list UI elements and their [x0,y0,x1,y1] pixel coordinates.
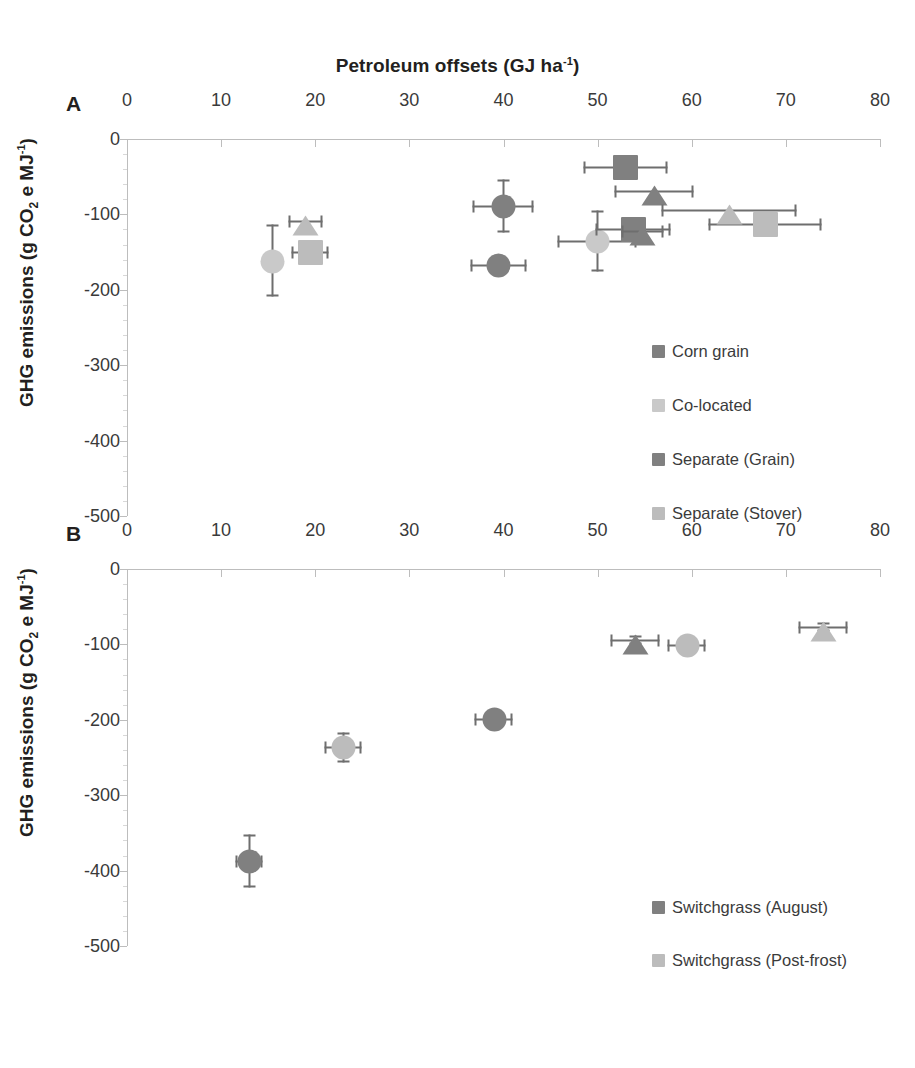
y-tick-minor [123,780,127,781]
panel-b: B 01020304050607080 0-100-200-300-400-50… [0,520,915,950]
y-tick-minor [123,750,127,751]
x-tick-mark [786,139,787,147]
ylabel-a-sup: -1 [15,144,27,154]
x-tick-label: 30 [399,520,419,541]
marker-circle [487,254,511,278]
x-tick-mark [315,139,316,147]
panel-a-xaxis-labels: 01020304050607080 [0,90,915,116]
x-tick-label: 10 [211,90,231,111]
ylabel-a-sub: 2 [27,202,41,209]
legend-item[interactable]: Separate (Grain) [652,450,795,469]
data-point [249,861,250,862]
y-tick-minor [123,320,127,321]
y-tick-minor [123,395,127,396]
marker-circle [675,633,699,657]
y-tick-minor [123,735,127,736]
data-point [687,645,688,646]
y-tick-minor [123,154,127,155]
marker-circle [482,708,506,732]
y-tick-mark [119,946,127,947]
x-tick-mark [221,569,222,577]
data-point [503,206,504,207]
data-point [654,191,655,192]
marker-square [613,155,638,180]
data-point [498,265,499,266]
marker-triangle [641,186,667,206]
y-tick-minor [123,335,127,336]
legend-item[interactable]: Co-located [652,396,752,415]
x-tick-label: 10 [211,520,231,541]
ylabel-b-sup: -1 [15,574,27,584]
y-tick-mark [119,516,127,517]
x-tick-mark [692,139,693,147]
x-tick-mark [692,569,693,577]
chart-title: Petroleum offsets (GJ ha-1) [0,55,915,77]
y-tick-mark [119,441,127,442]
x-tick-label: 60 [682,90,702,111]
panel-b-xaxis-labels: 01020304050607080 [0,520,915,546]
y-tick-minor [123,410,127,411]
y-tick-minor [123,501,127,502]
y-tick-minor [123,916,127,917]
legend-item[interactable]: Switchgrass (August) [652,898,828,917]
chart-title-superscript: -1 [563,55,573,67]
data-point [729,210,730,211]
x-tick-mark [315,569,316,577]
y-tick-minor [123,245,127,246]
panel-b-ylabel: GHG emissions (g CO2 e MJ-1) [15,503,40,903]
y-tick-minor [123,486,127,487]
y-tick-mark [119,290,127,291]
legend-swatch-icon [652,954,665,967]
legend-item[interactable]: Switchgrass (Post-frost) [652,951,847,970]
chart-title-close: ) [573,55,579,76]
legend-label: Switchgrass (August) [672,898,828,917]
y-tick-minor [123,825,127,826]
marker-circle [237,850,261,874]
x-tick-mark [598,139,599,147]
x-tick-label: 80 [870,90,890,111]
legend-label: Switchgrass (Post-frost) [672,951,847,970]
y-tick-minor [123,659,127,660]
y-tick-mark [119,871,127,872]
y-tick-minor [123,810,127,811]
y-tick-minor [123,229,127,230]
y-tick-minor [123,901,127,902]
marker-triangle [811,621,837,641]
panel-b-plot-area [127,569,880,946]
data-point [635,640,636,641]
marker-triangle [716,205,742,225]
data-point [305,221,306,222]
data-point [494,719,495,720]
ylabel-b-part3: ) [16,568,37,574]
data-point [310,252,311,253]
y-tick-minor [123,675,127,676]
y-tick-mark [119,569,127,570]
ylabel-b-part1: GHG emissions (g CO [16,638,37,836]
y-tick-minor [123,169,127,170]
panel-a-y-axis-line [127,139,128,516]
x-tick-label: 80 [870,520,890,541]
ylabel-b-sub: 2 [27,632,41,639]
y-tick-minor [123,931,127,932]
panel-a: A 01020304050607080 0-100-200-300-400-50… [0,90,915,520]
y-tick-minor [123,456,127,457]
x-tick-label: 30 [399,90,419,111]
marker-triangle [630,226,656,246]
x-tick-mark [880,569,881,577]
legend-item[interactable]: Corn grain [652,342,749,361]
panel-b-y-axis-line [127,569,128,946]
x-tick-label: 50 [588,90,608,111]
marker-triangle [622,635,648,655]
data-point [823,627,824,628]
y-tick-mark [119,720,127,721]
marker-triangle [293,216,319,236]
data-point [765,224,766,225]
panel-a-ylabel: GHG emissions (g CO2 e MJ-1) [15,73,40,473]
y-tick-minor [123,471,127,472]
y-tick-minor [123,856,127,857]
marker-circle [586,230,610,254]
data-point [597,241,598,242]
x-tick-mark [127,139,128,147]
y-tick-minor [123,614,127,615]
ylabel-a-part3: ) [16,138,37,144]
